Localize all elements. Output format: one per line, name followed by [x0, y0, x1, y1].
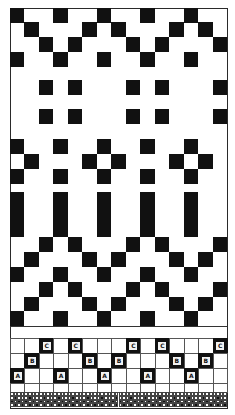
- grid-cell-row-b: [53, 353, 68, 369]
- fine-border-cell: [223, 403, 227, 407]
- stitch-zigzag-top-row-2-col-13: [198, 22, 212, 37]
- grid-cell-row-b: [39, 353, 54, 369]
- stitch-zigzag-top-row-1-col-6: [97, 8, 111, 23]
- grid-cell-row-c: [111, 338, 126, 354]
- color-key-letter: B: [202, 357, 210, 365]
- color-key-letter: C: [158, 342, 166, 350]
- stitch-cross-row-1-col-12: [184, 139, 198, 154]
- stitch-zigzag-bottom-row-4-col-2: [39, 282, 53, 297]
- stitch-dots-row-2-col-8: [126, 109, 140, 124]
- grid-cell-row-b: [68, 353, 83, 369]
- stitch-cross-row-1-col-3: [53, 139, 67, 154]
- grid-cell-row-b: [155, 353, 170, 369]
- stitch-zigzag-bottom-row-3-col-3: [53, 267, 67, 282]
- stitch-zigzag-top-row-4-col-9: [140, 52, 154, 67]
- stitch-zigzag-top-row-3-col-4: [68, 37, 82, 52]
- color-key-letter: C: [72, 342, 80, 350]
- stitch-dots-row-1-col-4: [68, 80, 82, 95]
- stitch-cross-row-3-col-3: [53, 169, 67, 184]
- stitch-zigzag-top-row-1-col-0: [10, 8, 24, 23]
- stitch-zigzag-top-row-1-col-12: [184, 8, 198, 23]
- stitch-zigzag-top-row-3-col-2: [39, 37, 53, 52]
- stitch-zigzag-bottom-row-2-col-5: [82, 252, 96, 267]
- grid-cell-row-c: [169, 338, 184, 354]
- color-key-letter: C: [43, 342, 51, 350]
- stitch-bars-col-12: [184, 192, 198, 237]
- stitch-zigzag-bottom-row-6-col-3: [53, 311, 67, 326]
- stitch-zigzag-top-row-4-col-3: [53, 52, 67, 67]
- grid-cell-row-c: C: [68, 338, 83, 354]
- color-key-letter: A: [101, 372, 109, 380]
- stitch-cross-row-3-col-12: [184, 169, 198, 184]
- stitch-zigzag-top-row-2-col-5: [82, 22, 96, 37]
- grid-cell-row-c: [24, 338, 39, 354]
- grid-cell-row-a: [24, 368, 39, 384]
- grid-cell-row-b: B: [82, 353, 97, 369]
- stitch-zigzag-top-row-1-col-9: [140, 8, 154, 23]
- stitch-zigzag-bottom-row-1-col-10: [155, 237, 169, 252]
- grid-cell-row-c: C: [39, 338, 54, 354]
- stitch-cross-row-3-col-6: [97, 169, 111, 184]
- grid-cell-row-a: A: [140, 368, 155, 384]
- stitch-zigzag-bottom-row-2-col-1: [24, 252, 38, 267]
- stitch-dots-row-2-col-14: [213, 109, 227, 124]
- stitch-zigzag-bottom-row-5-col-13: [198, 297, 212, 311]
- grid-cell-row-b: B: [198, 353, 213, 369]
- grid-cell-row-a: [198, 368, 213, 384]
- grid-cell-row-a: [155, 368, 170, 384]
- grid-cell-row-a: [213, 368, 228, 384]
- grid-cell-row-a: [82, 368, 97, 384]
- stitch-zigzag-top-row-2-col-7: [111, 22, 125, 37]
- stitch-zigzag-top-row-3-col-8: [126, 37, 140, 52]
- color-key-letter: B: [173, 357, 181, 365]
- grid-cell-row-c: [53, 338, 68, 354]
- grid-cell-row-a: [68, 368, 83, 384]
- grid-cell-row-b: [213, 353, 228, 369]
- stitch-zigzag-bottom-row-5-col-1: [24, 297, 38, 311]
- grid-cell-row-c: [10, 338, 25, 354]
- grid-cell-row-b: [140, 353, 155, 369]
- stitch-zigzag-top-row-3-col-10: [155, 37, 169, 52]
- stitch-bars-col-3: [53, 192, 67, 237]
- stitch-zigzag-bottom-row-1-col-4: [68, 237, 82, 252]
- color-key-letter: A: [144, 372, 152, 380]
- stitch-zigzag-bottom-row-3-col-9: [140, 267, 154, 282]
- grid-cell-row-b: B: [24, 353, 39, 369]
- stitch-zigzag-bottom-row-6-col-12: [184, 311, 198, 326]
- grid-cell-row-c: C: [155, 338, 170, 354]
- stitch-cross-row-2-col-1: [24, 154, 38, 169]
- stitch-zigzag-bottom-row-3-col-0: [10, 267, 24, 282]
- grid-cell-row-a: [169, 368, 184, 384]
- stitch-zigzag-bottom-row-5-col-5: [82, 297, 96, 311]
- stitch-zigzag-bottom-row-2-col-13: [198, 252, 212, 267]
- stitch-cross-row-3-col-0: [10, 169, 24, 184]
- color-key-letter: C: [129, 342, 137, 350]
- stitch-cross-row-1-col-9: [140, 139, 154, 154]
- stitch-cross-row-2-col-11: [169, 154, 183, 169]
- stitch-zigzag-bottom-row-4-col-10: [155, 282, 169, 297]
- stitch-dots-row-1-col-2: [39, 80, 53, 95]
- color-key-letter: B: [86, 357, 94, 365]
- stitch-bars-col-9: [140, 192, 154, 237]
- stitch-bars-col-0: [10, 192, 24, 237]
- grid-cell-row-a: A: [97, 368, 112, 384]
- stitch-cross-row-1-col-6: [97, 139, 111, 154]
- grid-cell-row-a: [39, 368, 54, 384]
- stitch-zigzag-top-row-4-col-12: [184, 52, 198, 67]
- grid-cell-row-b: [10, 353, 25, 369]
- stitch-zigzag-bottom-row-1-col-8: [126, 237, 140, 252]
- stitch-dots-row-1-col-10: [155, 80, 169, 95]
- grid-cell-row-c: [198, 338, 213, 354]
- grid-cell-row-c: C: [213, 338, 228, 354]
- grid-cell-row-b: B: [111, 353, 126, 369]
- stitch-zigzag-bottom-row-4-col-8: [126, 282, 140, 297]
- stitch-dots-row-1-col-8: [126, 80, 140, 95]
- grid-cell-row-a: A: [10, 368, 25, 384]
- grid-cell-row-c: [97, 338, 112, 354]
- stitch-dots-row-2-col-4: [68, 109, 82, 124]
- grid-cell-row-b: [97, 353, 112, 369]
- stitch-cross-row-1-col-0: [10, 139, 24, 154]
- stitch-dots-row-1-col-14: [213, 80, 227, 95]
- stitch-zigzag-top-row-4-col-0: [10, 52, 24, 67]
- stitch-zigzag-bottom-row-6-col-0: [10, 311, 24, 326]
